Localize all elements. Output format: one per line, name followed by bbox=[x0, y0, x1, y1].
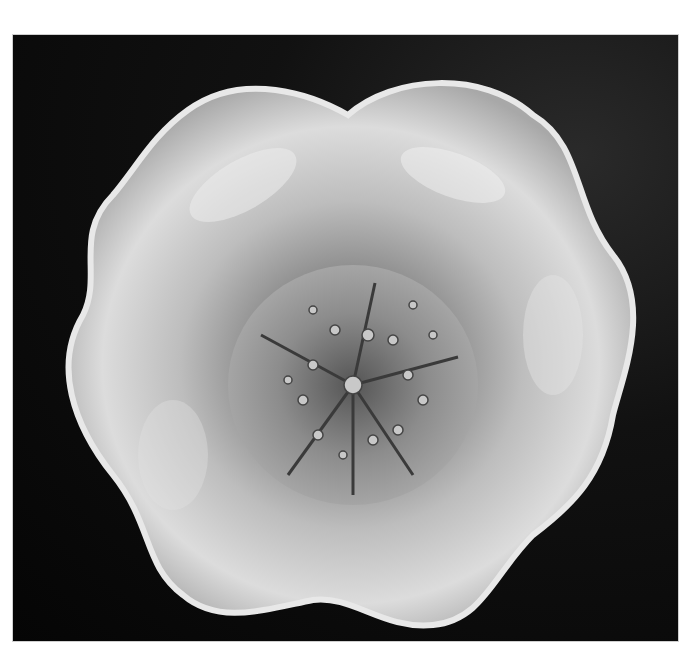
bowl-illustration bbox=[13, 35, 678, 641]
photograph bbox=[13, 35, 678, 641]
